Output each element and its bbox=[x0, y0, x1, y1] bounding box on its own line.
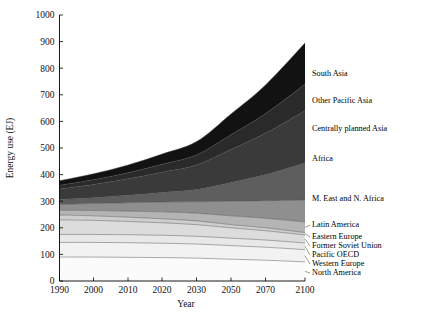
chart-figure: 01002003004005006007008009001000 1990200… bbox=[0, 0, 421, 316]
x-tick-label: 2010 bbox=[119, 285, 138, 295]
legend-leader-lines bbox=[305, 225, 310, 273]
legend-label: Pacific OECD bbox=[312, 250, 359, 259]
legend-label: Other Pacific Asia bbox=[312, 96, 372, 105]
y-tick-label: 400 bbox=[40, 170, 55, 180]
x-tick-label: 1990 bbox=[50, 285, 69, 295]
legend-leader-line bbox=[305, 225, 310, 227]
legend-label: Western Europe bbox=[312, 259, 364, 268]
legend-label: Eastern Europe bbox=[312, 232, 362, 241]
y-tick-label: 300 bbox=[40, 197, 55, 207]
y-tick-label: 600 bbox=[40, 117, 55, 127]
y-tick-labels: 01002003004005006007008009001000 bbox=[36, 10, 55, 286]
area-band bbox=[60, 257, 306, 281]
y-axis-title: Energy use (EJ) bbox=[5, 118, 16, 179]
x-tick-labels: 19902000201020202030205020702100 bbox=[50, 285, 315, 295]
x-tick-label: 2030 bbox=[187, 285, 206, 295]
legend-label: South Asia bbox=[312, 69, 348, 78]
legend-label: Centrally planned Asia bbox=[312, 124, 387, 133]
legend-label: North America bbox=[312, 268, 361, 277]
x-axis-title: Year bbox=[177, 299, 195, 309]
y-tick-label: 500 bbox=[40, 143, 55, 153]
y-tick-label: 1000 bbox=[36, 10, 55, 20]
y-tick-label: 900 bbox=[40, 37, 55, 47]
legend-leader-line bbox=[305, 234, 310, 237]
x-tick-label: 2020 bbox=[153, 285, 172, 295]
legend-leader-line bbox=[305, 246, 310, 255]
legend-leader-line bbox=[305, 256, 310, 264]
area-bands bbox=[60, 43, 306, 281]
x-tick-label: 2000 bbox=[84, 285, 103, 295]
x-tick-label: 2070 bbox=[256, 285, 275, 295]
legend-leader-line bbox=[305, 271, 310, 273]
legend-label: Former Soviet Union bbox=[312, 241, 382, 250]
y-tick-label: 200 bbox=[40, 223, 55, 233]
y-tick-label: 100 bbox=[40, 250, 55, 260]
x-tick-label: 2050 bbox=[222, 285, 241, 295]
y-tick-label: 800 bbox=[40, 64, 55, 74]
legend-label: Africa bbox=[312, 154, 333, 163]
legend-label: M. East and N. Africa bbox=[312, 194, 384, 203]
x-tick-label: 2100 bbox=[296, 285, 315, 295]
y-tick-label: 700 bbox=[40, 90, 55, 100]
legend-leader-line bbox=[305, 239, 310, 246]
legend-label: Latin America bbox=[312, 220, 359, 229]
